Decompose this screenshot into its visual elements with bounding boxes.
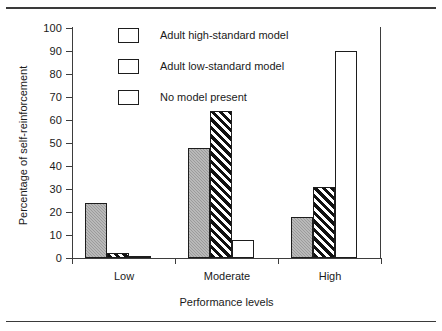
bar [107, 253, 129, 258]
x-axis-title: Performance levels [72, 296, 381, 308]
legend-item: Adult high-standard model [118, 24, 288, 46]
right-axis-line [380, 27, 381, 259]
bar [129, 256, 151, 258]
x-axis-tick [72, 258, 73, 264]
bar [188, 148, 210, 258]
x-axis-category-label: Moderate [177, 270, 277, 282]
y-axis-tick [66, 143, 73, 144]
bar [232, 240, 254, 258]
bar [313, 187, 335, 258]
chart-legend: Adult high-standard modelAdult low-stand… [118, 24, 288, 117]
x-axis-tick [278, 258, 279, 264]
legend-item-label: Adult high-standard model [160, 29, 288, 41]
bar [291, 217, 313, 258]
legend-swatch-hatch [118, 59, 139, 74]
y-axis-tick [66, 28, 73, 29]
y-axis-tick-label: 100 [22, 23, 62, 34]
y-axis-tick [66, 189, 73, 190]
legend-item: No model present [118, 86, 288, 108]
x-axis-category-label: Low [74, 270, 174, 282]
legend-item-label: Adult low-standard model [160, 60, 284, 72]
figure: 0102030405060708090100 LowModerateHigh P… [0, 0, 442, 331]
y-axis-tick [66, 235, 73, 236]
y-axis-tick [66, 166, 73, 167]
y-axis-tick [66, 51, 73, 52]
bar [85, 203, 107, 258]
x-axis-tick [381, 258, 382, 264]
y-axis-tick-label-wrap: 0 [18, 253, 62, 264]
legend-swatch-gray [118, 90, 139, 105]
y-axis-tick [66, 74, 73, 75]
x-axis-line [72, 258, 381, 259]
y-axis-tick-label: 0 [22, 253, 62, 264]
legend-item-label: No model present [160, 91, 247, 103]
x-axis-tick [175, 258, 176, 264]
y-axis-tick [66, 97, 73, 98]
y-axis-tick-label-wrap: 100 [18, 23, 62, 34]
bar [335, 51, 357, 258]
legend-swatch-white [118, 28, 139, 43]
x-axis-category-label: High [280, 270, 380, 282]
legend-item: Adult low-standard model [118, 55, 288, 77]
y-axis-tick [66, 212, 73, 213]
bar [210, 111, 232, 258]
y-axis-tick [66, 120, 73, 121]
y-axis-title: Percentage of self-reinforcement [18, 46, 29, 246]
